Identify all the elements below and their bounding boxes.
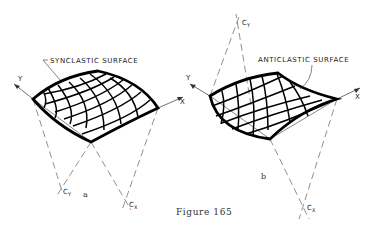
radius-b-cx-1: [270, 139, 309, 219]
figure-165: Y X SYNCLASTIC SURFACE: [0, 0, 372, 238]
radius-b-cx-2: [299, 99, 337, 219]
y-axis-label-b: Y: [185, 74, 191, 82]
y-arrow-b: [190, 84, 196, 89]
y-axis-label-a: Y: [17, 75, 23, 83]
radius-a-cx-1: [91, 142, 131, 210]
sublabel-b: b: [261, 172, 266, 181]
sublabel-a: a: [83, 190, 88, 199]
anticlastic-leader: [300, 65, 312, 89]
chord-a-left: [33, 99, 91, 142]
center-cy-a: CY: [63, 188, 72, 197]
radius-a-cy-2: [56, 142, 91, 197]
panel-b-anticlastic: Y X ANTICLASTIC SURFACE CY: [185, 14, 360, 219]
center-cx-b: CX: [307, 204, 316, 213]
x-axis-label-b: X: [355, 93, 360, 101]
x-axis-label-a: X: [180, 98, 185, 106]
anticlastic-title: ANTICLASTIC SURFACE: [258, 56, 349, 64]
figure-caption: Figure 165: [176, 207, 232, 217]
panel-a-synclastic: Y X SYNCLASTIC SURFACE: [14, 57, 185, 210]
center-cy-b: CY: [242, 19, 251, 28]
center-cx-a: CX: [129, 201, 138, 210]
synclastic-title: SYNCLASTIC SURFACE: [50, 57, 138, 65]
